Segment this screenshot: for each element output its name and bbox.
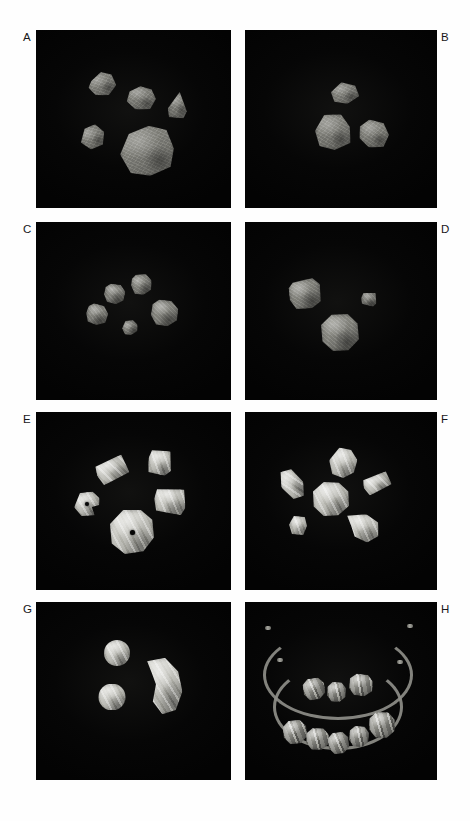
panel-e-background bbox=[36, 412, 231, 590]
panel-d-background bbox=[245, 222, 437, 400]
panel-a[interactable] bbox=[36, 30, 231, 208]
panel-label-a: A bbox=[23, 32, 31, 44]
cord-end-tip bbox=[397, 660, 403, 664]
panel-f[interactable] bbox=[245, 412, 437, 590]
panel-h[interactable] bbox=[245, 602, 437, 780]
panel-label-b: B bbox=[441, 32, 449, 44]
panel-b[interactable] bbox=[245, 30, 437, 208]
panel-label-h: H bbox=[441, 604, 450, 616]
panel-d[interactable] bbox=[245, 222, 437, 400]
cord-end-tip bbox=[265, 626, 271, 630]
panel-label-g: G bbox=[23, 604, 32, 616]
panel-e-bead-disc-large-drill-hole bbox=[130, 530, 135, 535]
panel-label-d: D bbox=[441, 224, 450, 236]
panel-e-bead-disc-small-drill-hole bbox=[85, 502, 89, 506]
panel-a-background bbox=[36, 30, 231, 208]
panel-e[interactable] bbox=[36, 412, 231, 590]
cord-end-tip bbox=[407, 624, 413, 628]
figure-plate: ABCDEFGH bbox=[0, 0, 470, 821]
cord-end-tip bbox=[277, 658, 283, 662]
panel-g-bead-sphere-lower[interactable] bbox=[98, 684, 126, 710]
panel-label-c: C bbox=[23, 224, 32, 236]
panel-label-f: F bbox=[441, 414, 448, 426]
panel-label-e: E bbox=[23, 414, 31, 426]
panel-g-bead-sphere-upper[interactable] bbox=[104, 640, 130, 666]
panel-g-background bbox=[36, 602, 231, 780]
panel-c-background bbox=[36, 222, 231, 400]
panel-c[interactable] bbox=[36, 222, 231, 400]
panel-g[interactable] bbox=[36, 602, 231, 780]
